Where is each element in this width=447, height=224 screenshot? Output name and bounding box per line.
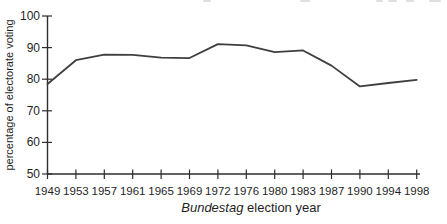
x-tick-label: 1994 xyxy=(376,185,402,197)
x-axis-title: Bundestag election year xyxy=(181,200,321,215)
x-tick-label: 1953 xyxy=(63,185,89,197)
x-tick-label: 1969 xyxy=(177,185,203,197)
y-tick-label: 90 xyxy=(27,41,41,55)
x-axis-title-rest: election year xyxy=(243,200,320,215)
x-tick-label: 1998 xyxy=(404,185,430,197)
y-tick-label: 60 xyxy=(27,135,41,149)
turnout-line xyxy=(48,44,417,86)
y-tick-label: 50 xyxy=(27,167,41,181)
x-tick-label: 1949 xyxy=(35,185,61,197)
y-tick-label: 80 xyxy=(27,72,41,86)
x-tick-label: 1980 xyxy=(262,185,288,197)
x-tick-label: 1961 xyxy=(120,185,146,197)
x-tick-label: 1972 xyxy=(205,185,231,197)
x-tick-label: 1990 xyxy=(347,185,373,197)
turnout-line-chart: 5060708090100194919531957196119651969197… xyxy=(0,0,447,224)
chart-svg: 5060708090100194919531957196119651969197… xyxy=(0,0,447,224)
y-tick-label: 100 xyxy=(20,9,40,23)
x-tick-label: 1987 xyxy=(319,185,345,197)
x-axis-title-italic: Bundestag xyxy=(181,200,243,215)
x-tick-label: 1976 xyxy=(234,185,260,197)
x-tick-label: 1983 xyxy=(290,185,316,197)
y-tick-label: 70 xyxy=(27,104,41,118)
x-tick-label: 1965 xyxy=(148,185,174,197)
x-tick-label: 1957 xyxy=(92,185,118,197)
y-axis-title: percentage of electorate voting xyxy=(3,19,15,170)
